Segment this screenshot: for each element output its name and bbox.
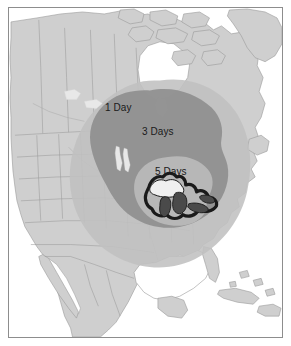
north-america-transit-time-map: 1 Day 3 Days 5 Days <box>0 0 291 346</box>
map-frame: 1 Day 3 Days 5 Days <box>8 7 283 338</box>
lake-huron <box>173 192 187 213</box>
map-graphic <box>9 8 282 337</box>
